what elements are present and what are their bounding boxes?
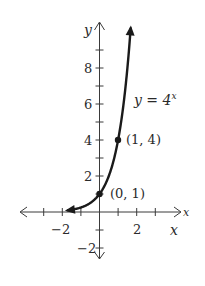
exponential-graph: y x x 8 6 4 2 −2 −2 2 y = 4x (1, 4) (0, …: [0, 0, 205, 286]
point-1-4: [115, 137, 121, 143]
curve-label: y = 4x: [133, 91, 177, 108]
ytick-label-2: 2: [84, 169, 92, 184]
x-axis-label: x: [170, 222, 178, 238]
xtick-label-neg2: −2: [51, 222, 70, 237]
point-label-0-1: (0, 1): [110, 186, 145, 201]
y-axis-label: y: [83, 22, 93, 38]
point-0-1: [96, 191, 102, 197]
curve-label-exponent: x: [171, 91, 176, 101]
ytick-label-neg2: −2: [77, 241, 96, 256]
curve-label-base: y = 4: [133, 92, 171, 108]
ytick-label-6: 6: [84, 97, 92, 112]
y-axis: [95, 22, 105, 259]
xtick-label-2: 2: [133, 222, 141, 237]
curve-top-arrow-icon: [126, 25, 135, 35]
x-axis: [20, 207, 181, 217]
point-label-1-4: (1, 4): [126, 132, 161, 147]
ytick-label-4: 4: [84, 133, 92, 148]
x-axis-end-label: x: [183, 206, 190, 219]
ytick-label-8: 8: [84, 61, 92, 76]
